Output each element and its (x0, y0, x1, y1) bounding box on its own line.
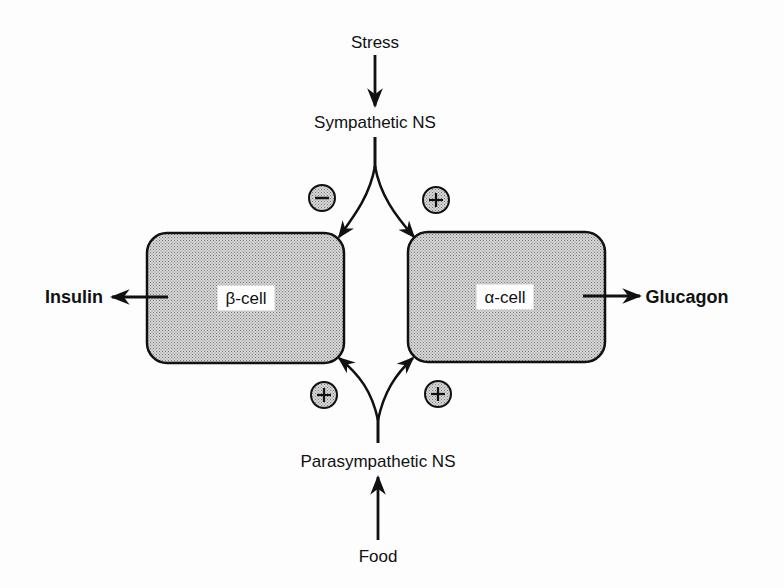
alpha-cell-label: α-cell (477, 285, 534, 310)
sympathetic-to-alpha-arrow (375, 166, 414, 237)
beta-cell-label: β-cell (218, 286, 275, 311)
parasympathetic-to-alpha-arrow (378, 358, 413, 420)
food-label: Food (359, 548, 398, 565)
plus-sign-icon (425, 381, 451, 407)
glucagon-label: Glucagon (645, 288, 728, 306)
minus-sign-icon (309, 185, 335, 211)
diagram-canvas: Stress Sympathetic NS β-cell α-cell Insu… (0, 0, 784, 588)
plus-sign-icon (311, 382, 337, 408)
sympathetic-to-beta-arrow (339, 166, 375, 237)
plus-sign-icon (423, 187, 449, 213)
insulin-label: Insulin (45, 288, 103, 306)
parasympathetic-to-beta-arrow (339, 358, 378, 420)
sympathetic-ns-label: Sympathetic NS (314, 114, 436, 131)
parasympathetic-ns-label: Parasympathetic NS (301, 453, 456, 470)
stress-label: Stress (351, 34, 399, 51)
